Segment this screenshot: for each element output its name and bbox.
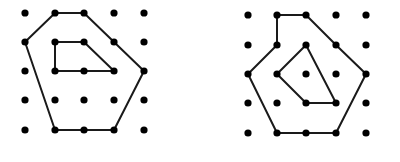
grid-dot: [244, 41, 251, 48]
grid-dot: [80, 9, 87, 16]
grid-dot: [332, 41, 339, 48]
grid-dot: [80, 126, 87, 133]
grid-dot: [21, 126, 28, 133]
grid-dot: [273, 99, 280, 106]
grid-dot: [110, 38, 117, 45]
grid-dot: [244, 99, 251, 106]
left-dot-grid-figure: [21, 9, 147, 133]
grid-dot: [21, 67, 28, 74]
grid-dot: [140, 9, 147, 16]
grid-dot: [140, 38, 147, 45]
grid-dot: [362, 99, 369, 106]
right-dot-grid-figure: [244, 11, 369, 136]
grid-dot: [21, 96, 28, 103]
inner-polygon: [55, 42, 114, 71]
grid-dot: [140, 96, 147, 103]
grid-dot: [273, 70, 280, 77]
grid-dot: [51, 126, 58, 133]
grid-dot: [51, 67, 58, 74]
grid-dot: [302, 99, 309, 106]
grid-dot: [332, 70, 339, 77]
grid-dot: [51, 9, 58, 16]
grid-dot: [332, 11, 339, 18]
grid-dot: [244, 11, 251, 18]
grid-dot: [332, 99, 339, 106]
grid-dot: [110, 126, 117, 133]
grid-dot: [21, 9, 28, 16]
grid-dot: [362, 11, 369, 18]
grid-dot: [244, 70, 251, 77]
grid-dot: [140, 126, 147, 133]
grid-dot: [273, 129, 280, 136]
grid-dot: [110, 96, 117, 103]
dot-grid-diagram: [0, 0, 400, 162]
grid-dot: [21, 38, 28, 45]
grid-dot: [362, 129, 369, 136]
grid-dot: [302, 11, 309, 18]
grid-dot: [51, 96, 58, 103]
grid-dot: [362, 70, 369, 77]
grid-dot: [302, 129, 309, 136]
grid-dot: [110, 67, 117, 74]
grid-dot: [302, 70, 309, 77]
grid-dot: [244, 129, 251, 136]
grid-dot: [80, 96, 87, 103]
grid-dot: [362, 41, 369, 48]
grid-dot: [273, 41, 280, 48]
grid-dot: [80, 38, 87, 45]
grid-dot: [110, 9, 117, 16]
grid-dot: [80, 67, 87, 74]
grid-dot: [140, 67, 147, 74]
grid-dot: [302, 41, 309, 48]
grid-dot: [51, 38, 58, 45]
grid-dot: [332, 129, 339, 136]
grid-dot: [273, 11, 280, 18]
